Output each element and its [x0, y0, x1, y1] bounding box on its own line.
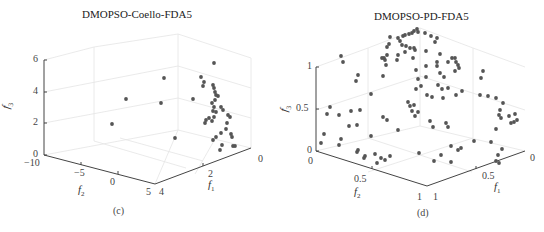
data-point [410, 109, 414, 113]
data-point [191, 97, 195, 101]
data-point [494, 127, 498, 131]
data-point [479, 76, 483, 80]
data-point [425, 93, 429, 97]
data-point [423, 31, 427, 35]
data-point [496, 153, 500, 157]
data-point [328, 105, 332, 109]
chart-panel-c: DMOPSO-Coello-FDA5 6 4 2 0 −10 −5 0 5 0 … [0, 0, 272, 232]
data-point [489, 140, 493, 144]
data-point [419, 84, 423, 88]
data-point [339, 137, 343, 141]
data-point [355, 123, 359, 127]
x-tick-4: 4 [159, 186, 164, 197]
data-point [424, 49, 428, 53]
caption-c: (c) [113, 205, 124, 216]
data-point [428, 119, 432, 123]
data-point [211, 138, 215, 142]
data-point [214, 110, 218, 114]
data-point [381, 115, 385, 119]
data-point [203, 121, 207, 125]
x-tick-1: 1 [433, 191, 438, 202]
data-point [212, 105, 216, 109]
data-point [513, 112, 517, 116]
data-point [319, 141, 323, 145]
data-point [457, 66, 461, 70]
z-tick-2: 2 [33, 116, 38, 127]
y-tick-5: 5 [146, 186, 151, 197]
y-tick-0: 0 [110, 176, 115, 187]
data-point [358, 108, 362, 112]
data-point [216, 94, 220, 98]
data-point [424, 75, 428, 79]
data-point [406, 100, 410, 104]
data-point [429, 34, 433, 38]
data-point [408, 104, 412, 108]
data-point [355, 150, 359, 154]
data-point [438, 71, 442, 75]
data-point [494, 96, 498, 100]
data-point [433, 40, 437, 44]
data-point [404, 44, 408, 48]
data-point [396, 128, 400, 132]
data-point [435, 60, 439, 64]
data-point [498, 108, 502, 112]
data-point [214, 135, 218, 139]
z-tick-4: 4 [33, 85, 38, 96]
z-tick-0: 0 [307, 144, 312, 155]
data-point [383, 158, 387, 162]
data-point [354, 79, 358, 83]
y-tick-0: 0 [308, 155, 313, 166]
data-point [417, 151, 421, 155]
data-point [218, 148, 222, 152]
data-point [446, 86, 450, 90]
data-point [449, 160, 453, 164]
data-point [403, 50, 407, 54]
data-point [486, 94, 490, 98]
data-point [202, 80, 206, 84]
data-point [337, 143, 341, 147]
data-point [436, 83, 440, 87]
data-point [199, 75, 203, 79]
data-point [362, 156, 366, 160]
data-point [438, 52, 442, 56]
data-point [444, 121, 448, 125]
data-point [408, 46, 412, 50]
data-point [412, 103, 416, 107]
data-point [446, 125, 450, 129]
data-point [396, 53, 400, 57]
data-point [373, 152, 377, 156]
data-point [388, 154, 392, 158]
data-point [450, 56, 454, 60]
scatter-points-d [319, 27, 519, 165]
data-point [401, 34, 405, 38]
y-tick-0.5: 0.5 [354, 173, 367, 184]
data-point [210, 101, 214, 105]
data-point [416, 77, 420, 81]
z-tick-1: 1 [307, 60, 312, 71]
data-point [369, 134, 373, 138]
data-point [398, 39, 402, 43]
data-point [212, 115, 216, 119]
z-tick-0.5: 0.5 [296, 102, 309, 113]
data-point [435, 64, 439, 68]
chart-title-c: DMOPSO-Coello-FDA5 [82, 8, 192, 20]
data-point [501, 101, 505, 105]
data-point [212, 61, 216, 65]
data-point [356, 73, 360, 77]
data-point [416, 30, 420, 34]
data-point [325, 112, 329, 116]
data-point [322, 132, 326, 136]
data-point [221, 108, 225, 112]
data-point [110, 122, 114, 126]
y-axis-label-c: f2 [78, 183, 85, 198]
data-point [339, 54, 343, 58]
data-point [228, 115, 232, 119]
data-point [388, 35, 392, 39]
data-point [220, 143, 224, 147]
data-point [432, 159, 436, 163]
data-point [424, 64, 428, 68]
data-point [347, 124, 351, 128]
data-point [481, 69, 485, 73]
data-point [213, 98, 217, 102]
data-point [162, 76, 166, 80]
